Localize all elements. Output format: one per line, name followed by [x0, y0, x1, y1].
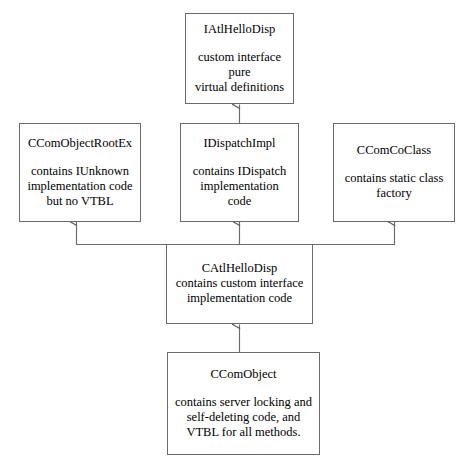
node-catlhellodisp-body: contains custom interface implementation… — [170, 276, 310, 307]
node-iatlhellodisp-body: custom interface pure virtual definition… — [186, 50, 293, 96]
node-iatlhellodisp[interactable]: IAtlHelloDisp custom interface pure virt… — [185, 13, 294, 104]
node-ccomobjectrootex-title: CComObjectRootEx — [28, 136, 132, 151]
node-ccomobjectrootex-body: contains IUnknown implementation code bu… — [21, 164, 138, 210]
node-iatlhellodisp-title: IAtlHelloDisp — [204, 22, 276, 37]
edge-catlhellodisp-to-ccomcoclass — [313, 222, 395, 245]
class-diagram: IAtlHelloDisp custom interface pure virt… — [0, 0, 474, 475]
node-idispatchimpl[interactable]: IDispatchImpl contains IDispatch impleme… — [180, 123, 299, 222]
node-ccomcoclass-body: contains static class factory — [339, 171, 450, 202]
node-ccomobject-body: contains server locking and self-deletin… — [169, 395, 318, 441]
node-ccomobject[interactable]: CComObject contains server locking and s… — [167, 352, 320, 455]
edge-catlhellodisp-to-ccomobjectrootex — [77, 222, 167, 245]
node-ccomobjectrootex[interactable]: CComObjectRootEx contains IUnknown imple… — [19, 123, 141, 222]
node-catlhellodisp[interactable]: CAtlHelloDisp contains custom interface … — [166, 244, 313, 324]
node-catlhellodisp-title: CAtlHelloDisp — [202, 261, 278, 276]
node-ccomcoclass-title: CComCoClass — [357, 143, 431, 158]
node-idispatchimpl-body: contains IDispatch implementation code — [181, 164, 298, 210]
node-ccomcoclass[interactable]: CComCoClass contains static class factor… — [333, 123, 455, 222]
node-ccomobject-title: CComObject — [211, 367, 277, 382]
node-idispatchimpl-title: IDispatchImpl — [203, 136, 275, 151]
